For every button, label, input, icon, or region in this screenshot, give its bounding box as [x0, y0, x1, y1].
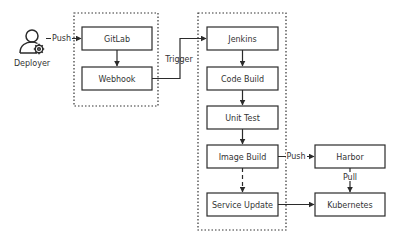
- node-service-update: Service Update: [207, 193, 278, 216]
- node-jenkins-label: Jenkins: [227, 35, 256, 44]
- node-unit-test-label: Unit Test: [225, 114, 260, 123]
- edge-label-pull: Pull: [343, 173, 357, 182]
- actor-label: Deployer: [14, 59, 51, 68]
- node-harbor-label: Harbor: [336, 153, 364, 162]
- node-service-update-label: Service Update: [212, 201, 273, 210]
- node-code-build: Code Build: [207, 67, 278, 90]
- node-unit-test: Unit Test: [207, 106, 278, 129]
- node-kubernetes: Kubernetes: [315, 193, 385, 216]
- node-kubernetes-label: Kubernetes: [327, 201, 372, 210]
- pipeline-diagram: Deployer Push Trigger Push Pull GitLab W…: [0, 0, 405, 242]
- user-gear-icon: [20, 30, 44, 54]
- node-code-build-label: Code Build: [221, 75, 264, 84]
- edge-label-push: Push: [52, 34, 71, 43]
- node-webhook-label: Webhook: [99, 75, 136, 84]
- node-image-build: Image Build: [207, 145, 278, 168]
- node-jenkins: Jenkins: [207, 27, 278, 50]
- edge-label-push-harbor: Push: [287, 152, 306, 161]
- node-gitlab-label: GitLab: [104, 35, 130, 44]
- node-gitlab: GitLab: [82, 27, 152, 50]
- node-harbor: Harbor: [315, 145, 385, 168]
- edge-label-trigger: Trigger: [164, 55, 193, 64]
- node-image-build-label: Image Build: [219, 153, 267, 162]
- node-webhook: Webhook: [82, 67, 152, 90]
